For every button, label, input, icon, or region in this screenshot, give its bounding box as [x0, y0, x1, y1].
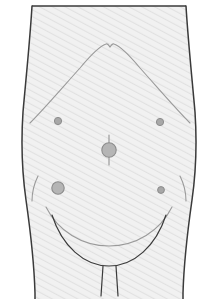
port-site-umbilical[interactable] — [102, 143, 116, 157]
figure-root — [0, 0, 218, 299]
port-site-right-lower[interactable] — [158, 187, 165, 194]
abdominal-torso-diagram — [0, 0, 218, 299]
port-site-left-lower[interactable] — [52, 182, 64, 194]
port-site-right-upper[interactable] — [156, 118, 163, 125]
port-site-left-upper[interactable] — [54, 117, 61, 124]
